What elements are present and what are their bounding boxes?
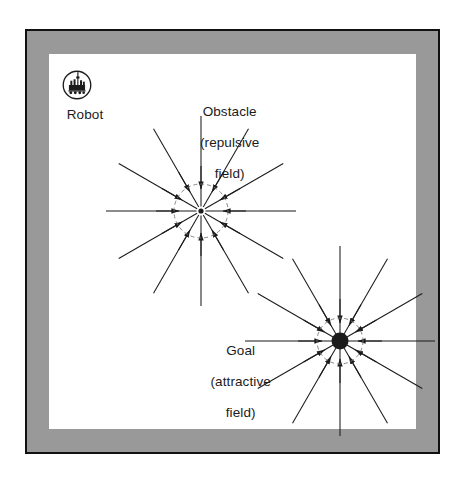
goal-label-line2: (attractive <box>211 374 271 389</box>
obstacle-label: Obstacle (repulsive field) <box>160 88 284 197</box>
potential-field-figure: Robot Obstacle (repulsive field) Goal (a… <box>0 0 465 484</box>
goal-label-line1: Goal <box>226 343 255 358</box>
robot-circle-icon <box>58 66 96 104</box>
obstacle-label-line2: (repulsive <box>200 135 260 150</box>
robot-label: Robot <box>55 107 115 123</box>
goal-label-line3: field) <box>226 405 256 420</box>
goal-label: Goal (attractive field) <box>178 327 288 436</box>
obstacle-label-line1: Obstacle <box>203 104 257 119</box>
obstacle-label-line3: field) <box>215 166 245 181</box>
